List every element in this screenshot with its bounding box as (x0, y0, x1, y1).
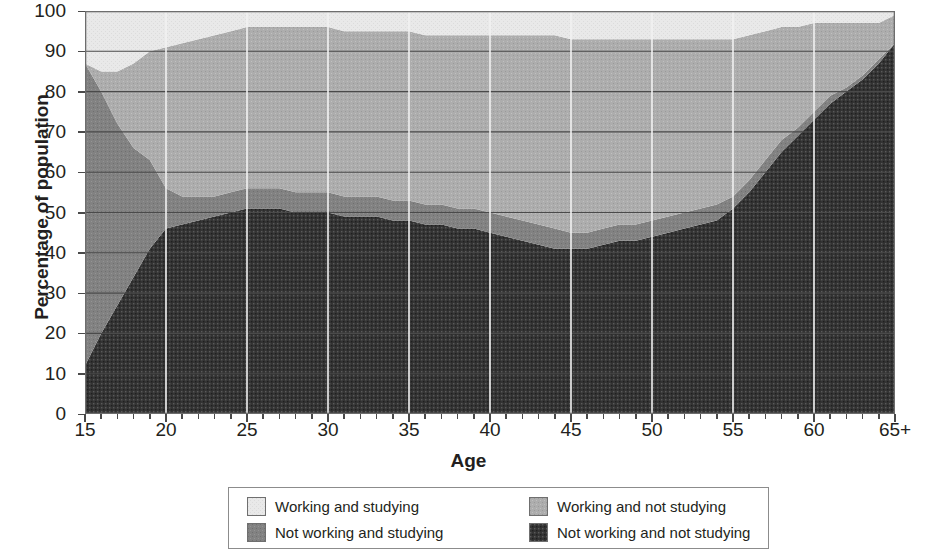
x-tick-label-50: 50 (622, 420, 682, 439)
x-tick-mark-30 (327, 414, 329, 422)
y-tick-mark-100 (78, 11, 85, 13)
legend-item-working-and-studying[interactable]: Working and studying (247, 497, 419, 516)
y-tick-mark-90 (78, 51, 85, 53)
x-tick-mark-59 (797, 414, 799, 419)
x-tick-mark-23 (214, 414, 216, 419)
x-tick-mark-51 (667, 414, 669, 419)
x-tick-mark-37 (441, 414, 443, 419)
y-tick-label-100: 100 (24, 1, 66, 20)
x-tick-mark-58 (781, 414, 783, 419)
x-tick-mark-41 (505, 414, 507, 419)
x-tick-mark-61 (829, 414, 831, 419)
legend-item-working-and-not-studying[interactable]: Working and not studying (529, 497, 726, 516)
x-tick-mark-54 (716, 414, 718, 419)
x-tick-mark-48 (619, 414, 621, 419)
y-tick-mark-30 (78, 293, 85, 295)
x-tick-mark-34 (392, 414, 394, 419)
legend-swatch (247, 523, 266, 542)
x-tick-label-15: 15 (55, 420, 115, 439)
y-tick-mark-60 (78, 172, 85, 174)
x-tick-mark-62 (846, 414, 848, 419)
x-tick-mark-44 (554, 414, 556, 419)
x-tick-mark-57 (765, 414, 767, 419)
x-tick-mark-28 (295, 414, 297, 419)
x-tick-mark-21 (181, 414, 183, 419)
legend-swatch (529, 497, 548, 516)
y-tick-label-60: 60 (24, 162, 66, 181)
y-tick-mark-10 (78, 373, 85, 375)
x-tick-mark-25 (246, 414, 248, 422)
y-tick-label-10: 10 (24, 364, 66, 383)
plot-area (85, 11, 895, 414)
y-tick-label-30: 30 (24, 283, 66, 302)
x-tick-label-30: 30 (298, 420, 358, 439)
y-tick-label-50: 50 (24, 203, 66, 222)
x-tick-mark-64 (878, 414, 880, 419)
y-tick-mark-50 (78, 212, 85, 214)
x-tick-mark-56 (748, 414, 750, 419)
y-tick-label-20: 20 (24, 323, 66, 342)
legend-item-not-working-and-studying[interactable]: Not working and studying (247, 523, 443, 542)
y-tick-mark-70 (78, 131, 85, 133)
x-tick-mark-52 (684, 414, 686, 419)
x-tick-mark-47 (603, 414, 605, 419)
chart-page: Percentage of population 100908070605040… (0, 0, 937, 559)
x-tick-label-20: 20 (136, 420, 196, 439)
legend-label: Working and studying (275, 499, 419, 514)
x-tick-mark-49 (635, 414, 637, 419)
x-tick-label-60: 60 (784, 420, 844, 439)
x-axis-title: Age (0, 450, 937, 472)
x-tick-label-40: 40 (460, 420, 520, 439)
x-tick-mark-20 (165, 414, 167, 422)
x-tick-mark-46 (586, 414, 588, 419)
x-tick-label-65plus: 65+ (865, 420, 925, 439)
x-tick-mark-50 (651, 414, 653, 422)
y-tick-label-40: 40 (24, 243, 66, 262)
x-tick-mark-26 (262, 414, 264, 419)
x-tick-label-25: 25 (217, 420, 277, 439)
x-tick-mark-65 (894, 414, 896, 422)
x-tick-mark-60 (813, 414, 815, 422)
x-tick-mark-40 (489, 414, 491, 422)
x-tick-mark-35 (408, 414, 410, 422)
legend-swatch (529, 523, 548, 542)
x-tick-mark-63 (862, 414, 864, 419)
x-tick-mark-29 (311, 414, 313, 419)
x-tick-mark-45 (570, 414, 572, 422)
chart-legend: Working and studyingNot working and stud… (228, 487, 769, 549)
x-tick-mark-16 (100, 414, 102, 419)
legend-item-not-working-and-not-studying[interactable]: Not working and not studying (529, 523, 750, 542)
x-tick-label-35: 35 (379, 420, 439, 439)
x-tick-mark-33 (376, 414, 378, 419)
x-tick-mark-42 (522, 414, 524, 419)
y-tick-label-80: 80 (24, 82, 66, 101)
x-tick-label-55: 55 (703, 420, 763, 439)
x-tick-mark-17 (117, 414, 119, 419)
x-tick-mark-43 (538, 414, 540, 419)
y-tick-label-70: 70 (24, 122, 66, 141)
x-tick-mark-31 (343, 414, 345, 419)
legend-label: Not working and not studying (557, 525, 750, 540)
stacked-area-chart (85, 11, 895, 414)
x-tick-mark-27 (279, 414, 281, 419)
legend-swatch (247, 497, 266, 516)
y-tick-mark-20 (78, 333, 85, 335)
x-tick-mark-39 (473, 414, 475, 419)
x-tick-mark-22 (198, 414, 200, 419)
y-tick-label-90: 90 (24, 41, 66, 60)
x-tick-mark-38 (457, 414, 459, 419)
x-tick-mark-24 (230, 414, 232, 419)
x-tick-mark-32 (360, 414, 362, 419)
x-tick-mark-15 (84, 414, 86, 422)
x-tick-label-45: 45 (541, 420, 601, 439)
legend-label: Not working and studying (275, 525, 443, 540)
x-tick-mark-36 (424, 414, 426, 419)
y-tick-mark-80 (78, 91, 85, 93)
x-tick-mark-55 (732, 414, 734, 422)
x-tick-mark-19 (149, 414, 151, 419)
legend-label: Working and not studying (557, 499, 726, 514)
x-tick-mark-53 (700, 414, 702, 419)
y-tick-mark-40 (78, 252, 85, 254)
x-tick-mark-18 (133, 414, 135, 419)
